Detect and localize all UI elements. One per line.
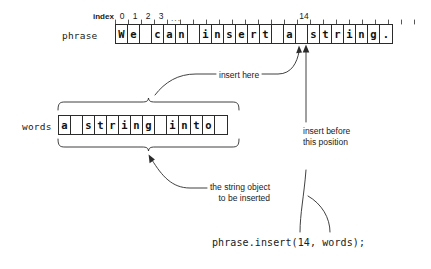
words-cell-3: t: [95, 116, 107, 134]
phrase-cell-20: n: [356, 25, 368, 43]
phrase-cell-grid: Wecaninsertastring.: [115, 24, 393, 44]
annotation-insert-before-line2: this position: [303, 137, 350, 148]
phrase-cell-12: t: [260, 25, 272, 43]
index-tick-0: 0: [115, 11, 129, 21]
phrase-cell-2: [140, 25, 152, 43]
phrase-cell-0: W: [116, 25, 128, 43]
words-cell-9: i: [167, 116, 179, 134]
phrase-cell-11: r: [248, 25, 260, 43]
phrase-cell-16: s: [308, 25, 320, 43]
words-row-label: words: [22, 121, 52, 132]
words-cell-10: n: [179, 116, 191, 134]
index-tick-14: 14: [297, 11, 311, 21]
diagram-canvas: index 0 1 2 3 ... 14 phrase Wecaninserta…: [0, 0, 431, 269]
words-cell-6: n: [131, 116, 143, 134]
phrase-cell-6: [188, 25, 200, 43]
phrase-cell-17: t: [320, 25, 332, 43]
annotation-string-object: the string object to be inserted: [210, 182, 270, 204]
words-cell-1: [71, 116, 83, 134]
annotation-string-object-line2: to be inserted: [210, 193, 270, 204]
index-tick-3: 3: [154, 11, 168, 21]
annotation-insert-here: insert here: [219, 70, 259, 81]
annotation-insert-before-position: insert before this position: [303, 126, 350, 148]
index-tick-1: 1: [128, 11, 142, 21]
index-tick-2: 2: [141, 11, 155, 21]
words-cell-5: i: [119, 116, 131, 134]
words-cell-4: r: [107, 116, 119, 134]
phrase-cell-8: n: [212, 25, 224, 43]
annotation-insert-before-line1: insert before: [303, 126, 350, 137]
phrase-cell-3: c: [152, 25, 164, 43]
words-cell-0: a: [59, 116, 71, 134]
words-cell-8: [155, 116, 167, 134]
annotation-string-object-line1: the string object: [210, 182, 270, 193]
phrase-cell-7: i: [200, 25, 212, 43]
words-cell-2: s: [83, 116, 95, 134]
phrase-cell-9: s: [224, 25, 236, 43]
code-statement: phrase.insert(14, words);: [212, 237, 365, 248]
words-cell-grid: astringinto: [58, 115, 228, 135]
phrase-cell-22: .: [380, 25, 392, 43]
phrase-cell-5: n: [176, 25, 188, 43]
words-cell-12: o: [203, 116, 215, 134]
phrase-cell-19: i: [344, 25, 356, 43]
phrase-cell-13: [272, 25, 284, 43]
phrase-cell-18: r: [332, 25, 344, 43]
phrase-cell-4: a: [164, 25, 176, 43]
phrase-cell-10: e: [236, 25, 248, 43]
phrase-cell-21: g: [368, 25, 380, 43]
words-cell-13: [215, 116, 227, 134]
phrase-cell-1: e: [128, 25, 140, 43]
phrase-cell-14: a: [284, 25, 296, 43]
words-cell-7: g: [143, 116, 155, 134]
index-scale-label: index: [93, 12, 114, 21]
phrase-cell-15: [296, 25, 308, 43]
index-ellipsis: ...: [168, 13, 184, 23]
words-cell-11: t: [191, 116, 203, 134]
phrase-row-label: phrase: [62, 30, 98, 41]
